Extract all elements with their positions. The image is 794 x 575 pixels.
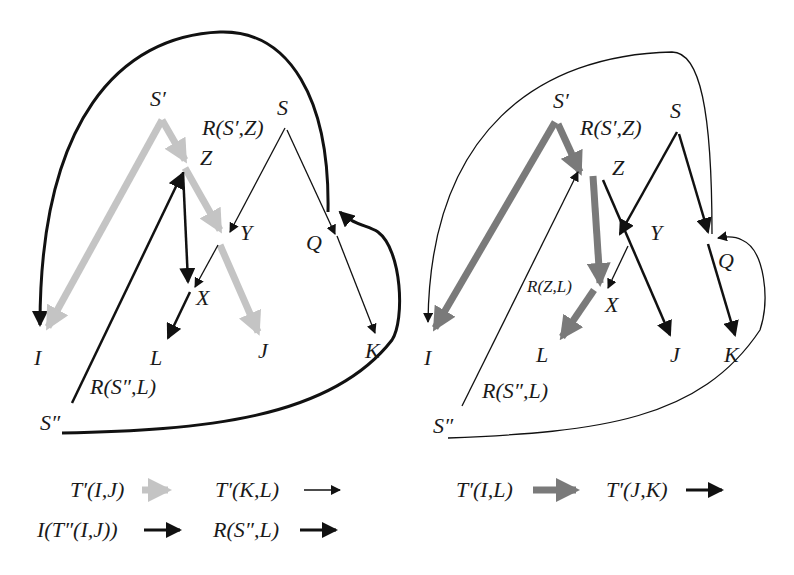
edge-sdd-to-z — [72, 174, 182, 403]
node-label-j-right: J — [670, 342, 681, 367]
edge-sdd-to-q-curve — [62, 212, 400, 433]
edge-s-to-y-right — [620, 132, 677, 234]
node-label-s-prime-right: S′ — [553, 88, 570, 113]
edge-label-r-sp-z: R(S′,Z) — [201, 115, 264, 140]
edge-label-r-sp-z-right: R(S′,Z) — [579, 115, 642, 140]
node-label-x-right: X — [604, 292, 620, 317]
left-diagram: S′ S R(S′,Z) Z Y Q X I L J K R(S″,L) S″ — [33, 32, 400, 435]
node-label-i-right: I — [423, 345, 433, 370]
node-label-q: Q — [306, 230, 322, 255]
node-label-s-double-right: S″ — [433, 413, 454, 438]
legend-label-t-j-k: T′(J,K) — [606, 477, 668, 502]
edge-label-r-sdd-l: R(S″,L) — [89, 374, 156, 399]
edge-sp-to-z-light — [162, 120, 185, 160]
node-label-k-right: K — [723, 342, 740, 367]
legend-label-i-t-i-j: I(T″(I,J)) — [36, 517, 118, 542]
node-label-z: Z — [200, 145, 213, 170]
node-label-y: Y — [240, 220, 255, 245]
edge-z-to-x-dark — [593, 176, 600, 283]
legend-label-t-i-l: T′(I,L) — [456, 477, 513, 502]
edge-sp-to-i-light — [48, 120, 162, 327]
edge-y-to-j-light — [220, 245, 258, 332]
edge-z-to-y-light — [185, 168, 220, 230]
edge-s-to-q-right — [679, 134, 708, 232]
node-label-l-right: L — [535, 342, 548, 367]
legend-label-t-i-j: T′(I,J) — [70, 477, 124, 502]
diagram-canvas: S′ S R(S′,Z) Z Y Q X I L J K R(S″,L) S″ … — [0, 0, 794, 575]
edge-x-to-l — [168, 292, 190, 338]
node-label-l: L — [149, 345, 162, 370]
node-label-x: X — [195, 285, 211, 310]
legend-right: T′(I,L) T′(J,K) — [456, 477, 722, 502]
node-label-j: J — [258, 338, 269, 363]
node-label-s-right: S — [670, 98, 681, 123]
legend-label-r-sdd-l: R(S″,L) — [212, 517, 279, 542]
edge-y-to-x — [195, 245, 218, 287]
edge-label-r-sdd-l-right: R(S″,L) — [481, 378, 548, 403]
node-label-z-right: Z — [612, 155, 625, 180]
edge-y-to-x-right — [608, 246, 628, 288]
legend-left: T′(I,J) T′(K,L) I(T″(I,J)) R(S″,L) — [36, 477, 340, 542]
edge-sp-to-i-dark — [435, 122, 555, 328]
edge-s-to-y — [230, 128, 285, 232]
node-label-k: K — [364, 338, 381, 363]
node-label-i: I — [33, 345, 43, 370]
edge-sp-to-z-dark — [558, 124, 580, 172]
edge-z-to-x — [183, 172, 188, 282]
node-label-q-right: Q — [718, 248, 734, 273]
edge-q-to-k — [337, 236, 375, 333]
edge-label-r-z-l-right: R(Z,L) — [526, 277, 572, 296]
legend-label-t-k-l: T′(K,L) — [215, 477, 279, 502]
edge-x-to-l-dark — [562, 290, 594, 337]
node-label-y-right: Y — [650, 220, 665, 245]
right-diagram: S′ S R(S′,Z) Z Y Q R(Z,L) X I L J K R(S″… — [423, 52, 765, 438]
node-label-s-double: S″ — [40, 410, 61, 435]
node-label-s-prime: S′ — [150, 86, 167, 111]
node-label-s: S — [277, 95, 288, 120]
